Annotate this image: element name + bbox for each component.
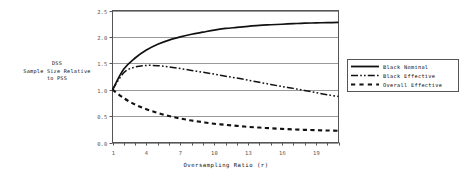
y-tick-label: 1.5: [97, 61, 107, 67]
x-tick-label: 19: [313, 150, 320, 156]
legend-item: Overall Effective: [350, 80, 455, 89]
legend-line-dashed-icon: [350, 80, 380, 89]
legend-line-solid-icon: [350, 62, 380, 71]
y-tick-label: 2.5: [97, 9, 107, 15]
chart-figure: DSS Sample Size Relative to PSS 0.00.51.…: [0, 0, 463, 177]
y-tick-label: 0.5: [97, 114, 107, 120]
y-tick-label: 0.0: [97, 141, 107, 147]
series-line: [113, 22, 339, 89]
y-tick-label: 2.0: [97, 35, 107, 41]
y-axis-ticks: 0.00.51.01.52.02.5: [97, 9, 112, 147]
legend-label: Overall Effective: [380, 82, 442, 88]
data-series-group: [113, 22, 339, 130]
legend-item: Black Nominal: [350, 62, 455, 71]
y-tick-label: 1.0: [97, 88, 107, 94]
x-tick-label: 10: [211, 150, 218, 156]
x-tick-label: 4: [145, 150, 148, 156]
series-line: [113, 65, 339, 96]
legend-item: Black Effective: [350, 71, 455, 80]
x-axis-title: Oversampling Ratio (r): [112, 162, 340, 168]
series-line: [113, 90, 339, 131]
gridlines: [113, 12, 339, 144]
chart-legend: Black Nominal Black Effective Overall Ef…: [347, 59, 459, 92]
legend-label: Black Effective: [380, 73, 435, 79]
x-axis-ticks: 14710131619: [112, 143, 340, 156]
x-tick-label: 1: [112, 150, 115, 156]
x-tick-label: 16: [279, 150, 286, 156]
x-tick-label: 13: [245, 150, 252, 156]
legend-line-dash-dot-dot-icon: [350, 71, 380, 80]
legend-label: Black Nominal: [380, 64, 428, 70]
x-tick-label: 7: [179, 150, 182, 156]
